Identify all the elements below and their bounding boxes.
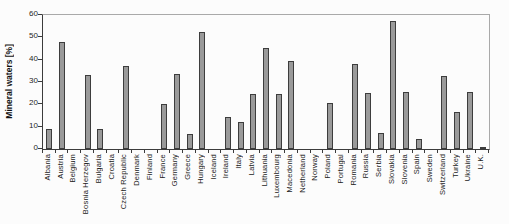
x-tick [310,149,311,153]
bar-ireland [225,117,231,149]
x-tick [55,149,56,153]
y-tick-label: 10 [18,121,38,131]
x-tick-label: Ireland [221,154,232,178]
x-tick [437,149,438,153]
x-tick [488,149,489,153]
x-tick-label: Portugal [336,154,347,184]
y-tick [38,103,42,104]
x-tick-label: U.K. [476,154,487,169]
bar-switzerland [441,76,447,149]
x-tick [271,149,272,153]
x-tick [182,149,183,153]
x-tick-label: Bosnia Herzegov [81,154,92,214]
x-tick [412,149,413,153]
x-tick-label: Russia [361,154,372,178]
x-tick-label: Albania [43,154,54,180]
x-tick-label: Poland [323,154,334,179]
x-tick [67,149,68,153]
x-tick [259,149,260,153]
x-tick-label: Romania [349,154,360,185]
x-tick-label: Turkey [451,154,462,178]
bar-hungary [199,32,205,149]
y-tick [38,36,42,37]
x-tick [131,149,132,153]
x-tick [297,149,298,153]
x-tick-label: Czech Republic [119,154,130,209]
x-tick-label: Hungary [196,154,207,184]
x-tick [106,149,107,153]
x-tick-label: Netherland [298,154,309,193]
bar-luxembourg [276,94,282,149]
x-tick-label: Lithuania [260,154,271,186]
x-tick-label: Spain [412,154,423,174]
y-tick [38,59,42,60]
x-tick [220,149,221,153]
x-tick-label: Bulgaria [94,154,105,183]
y-tick [38,14,42,15]
bar-bulgaria [97,129,103,149]
bar-slovenia [403,92,409,149]
x-tick [386,149,387,153]
x-tick-label: Iceland [209,154,220,180]
x-tick [399,149,400,153]
x-tick [157,149,158,153]
y-tick-label: 20 [18,98,38,108]
bar-romania [352,64,358,149]
bar-lithuania [263,48,269,149]
x-tick-label: Germany [170,154,181,186]
x-tick [373,149,374,153]
x-tick [144,149,145,153]
bar-albania [46,129,52,149]
bar-france [161,104,167,149]
x-tick [195,149,196,153]
y-tick-label: 30 [18,76,38,86]
x-tick [463,149,464,153]
bar-macedonia [288,61,294,149]
bar-greece [187,134,193,149]
x-tick [335,149,336,153]
x-tick [246,149,247,153]
x-tick [322,149,323,153]
x-tick [348,149,349,153]
x-tick-label: Serbia [374,154,385,177]
y-axis-title: Mineral waters [%] [2,14,16,148]
x-tick-label: France [158,154,169,179]
y-tick-label: 60 [18,9,38,19]
bar-austria [59,42,65,149]
x-tick [361,149,362,153]
x-tick [93,149,94,153]
x-tick-label: Denmark [132,154,143,186]
bar-czech-republic [123,66,129,149]
x-tick-label: Croatia [107,154,118,180]
y-tick-label: 40 [18,54,38,64]
x-tick [233,149,234,153]
x-tick-label: Macedonia [285,154,296,193]
x-tick-label: Ukraine [463,154,474,181]
x-tick-label: Latvia [247,154,258,175]
x-tick-label: Italy [234,154,245,169]
bar-spain [416,139,422,149]
y-tick [38,81,42,82]
x-tick [80,149,81,153]
y-tick [38,126,42,127]
x-tick-label: Norway [310,154,321,181]
y-tick-label: 0 [18,143,38,153]
bar-germany [174,74,180,149]
x-tick-label: Sweden [425,154,436,182]
x-tick-label: Austria [56,154,67,179]
bar-italy [238,122,244,149]
x-tick [450,149,451,153]
bar-turkey [454,112,460,149]
x-tick-label: Slovakia [387,154,398,184]
bar-bosnia-herzegov [85,75,91,149]
x-tick-label: Belgium [68,154,79,183]
bar-russia [365,93,371,149]
bar-serbia [378,133,384,149]
bar-ukraine [467,92,473,149]
x-tick [118,149,119,153]
x-tick-label: Slovenia [400,154,411,184]
x-tick [169,149,170,153]
mineral-waters-bar-chart: Mineral waters [%] 0102030405060AlbaniaA… [0,0,509,224]
bar-poland [327,103,333,149]
x-tick-label: Switzerland [438,154,449,195]
